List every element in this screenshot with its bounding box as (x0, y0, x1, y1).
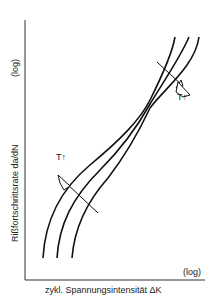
crack-growth-diagram (0, 0, 220, 304)
temperature-annotation-upper: T↑ (177, 92, 187, 102)
x-axis-scale-label: (log) (183, 267, 201, 277)
temperature-annotation-lower: T↑ (56, 152, 66, 162)
arrow-head-icon (58, 175, 70, 190)
x-axis-label: zykl. Spannungsintensität ΔK (45, 285, 162, 295)
y-axis-scale-label: (log) (10, 59, 20, 77)
curve-3 (72, 37, 199, 258)
curve-2 (57, 37, 189, 258)
